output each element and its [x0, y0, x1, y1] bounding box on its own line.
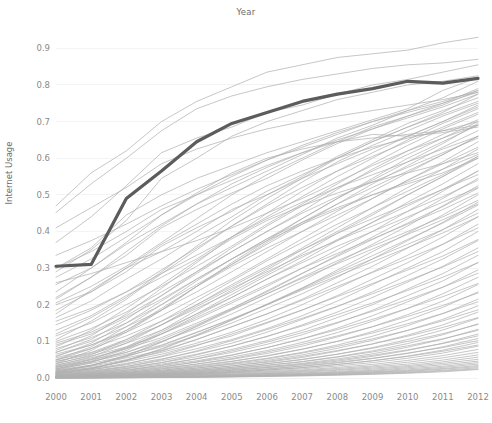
x-tick-label: 2003 [145, 392, 179, 402]
x-tick-label: 2009 [356, 392, 390, 402]
x-tick-label: 2012 [461, 392, 492, 402]
x-tick-label: 2001 [74, 392, 108, 402]
x-axis-tick-labels: 2000200120022003200420052006200720082009… [0, 0, 492, 423]
x-tick-label: 2007 [285, 392, 319, 402]
x-tick-label: 2002 [109, 392, 143, 402]
x-tick-label: 2010 [391, 392, 425, 402]
x-tick-label: 2004 [180, 392, 214, 402]
x-tick-label: 2000 [39, 392, 73, 402]
x-tick-label: 2006 [250, 392, 284, 402]
internet-usage-line-chart: Year Internet Usage 0.90.80.70.60.50.40.… [0, 0, 492, 423]
x-tick-label: 2005 [215, 392, 249, 402]
x-tick-label: 2011 [426, 392, 460, 402]
x-tick-label: 2008 [320, 392, 354, 402]
